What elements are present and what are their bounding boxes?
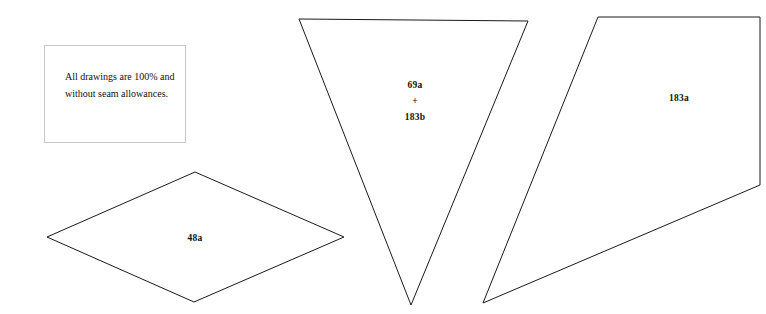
note-box: All drawings are 100% and without seam a… [44, 45, 186, 143]
piece-label-48a: 48a [188, 233, 203, 243]
note-text: All drawings are 100% and without seam a… [65, 68, 175, 102]
pattern-sheet: All drawings are 100% and without seam a… [0, 0, 766, 314]
piece-label-69a-183b: 69a + 183b [405, 77, 425, 125]
piece-label-plus-sign: + [405, 93, 425, 109]
piece-label-183a: 183a [669, 93, 689, 103]
piece-label-line-183b: 183b [405, 109, 425, 125]
pattern-piece-69a-183b[interactable] [299, 19, 528, 305]
pattern-piece-183a[interactable] [483, 17, 760, 303]
piece-label-line-69a: 69a [405, 77, 425, 93]
